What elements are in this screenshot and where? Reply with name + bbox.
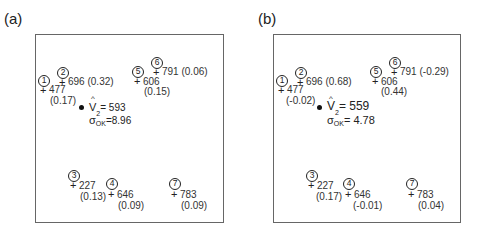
sample-value: 227 xyxy=(317,181,334,191)
sample-weight: (0.04) xyxy=(418,201,444,211)
sample-marker: + xyxy=(134,76,140,86)
estimate-number: = 593 xyxy=(100,102,125,113)
sample-marker: + xyxy=(345,189,351,199)
sample-marker: + xyxy=(108,189,114,199)
estimate-variance: σOK= 4.78 xyxy=(327,115,375,127)
sample-weight: (-0.29) xyxy=(419,66,448,77)
sample-marker: + xyxy=(408,189,414,199)
estimate-symbol: V xyxy=(327,99,335,113)
panel-label-a: (a) xyxy=(4,10,22,27)
sample-value-weight: 791 (-0.29) xyxy=(400,67,449,77)
sample-value-weight: 696 (0.68) xyxy=(306,77,352,87)
sample-weight: (0.09) xyxy=(181,201,207,211)
panel-label-b: (b) xyxy=(258,10,276,27)
sample-value: 696 xyxy=(306,76,323,87)
sample-marker: + xyxy=(59,77,65,87)
variance-subscript: OK xyxy=(96,120,106,127)
sample-weight: (0.15) xyxy=(144,87,170,97)
sample-weight: (0.68) xyxy=(325,76,351,87)
sample-marker: + xyxy=(70,180,76,190)
sample-value: 227 xyxy=(79,181,96,191)
sample-value: 646 xyxy=(354,190,371,200)
sample-value: 791 xyxy=(162,66,179,77)
sample-weight: (0.09) xyxy=(118,201,144,211)
sample-marker: + xyxy=(308,180,314,190)
sample-value-weight: 696 (0.32) xyxy=(68,77,114,87)
sample-value: 696 xyxy=(68,76,85,87)
sample-marker: + xyxy=(391,67,397,77)
sample-value: 791 xyxy=(400,66,417,77)
estimate-value: V2= 559 xyxy=(327,101,369,113)
sample-weight: (0.17) xyxy=(316,192,342,202)
sample-value: 783 xyxy=(180,190,197,200)
sample-weight: (-0.01) xyxy=(353,201,382,211)
estimate-variance: σOK=8.96 xyxy=(89,115,131,127)
estimation-point xyxy=(79,105,84,110)
sample-marker: + xyxy=(372,76,378,86)
sample-value: 783 xyxy=(417,190,434,200)
variance-number: = 4.78 xyxy=(344,114,375,126)
sample-value-weight: 791 (0.06) xyxy=(162,67,208,77)
estimate-value: V2= 593 xyxy=(89,102,126,114)
sample-marker: + xyxy=(297,77,303,87)
variance-subscript: OK xyxy=(334,120,344,127)
sigma-symbol: σ xyxy=(89,114,96,126)
sample-weight: (0.17) xyxy=(50,96,76,106)
variance-number: =8.96 xyxy=(106,115,131,126)
sample-marker: + xyxy=(171,189,177,199)
estimate-number: = 559 xyxy=(339,99,369,113)
sample-marker: + xyxy=(40,85,46,95)
sample-weight: (0.06) xyxy=(181,66,207,77)
sample-marker: + xyxy=(278,85,284,95)
sample-weight: (0.44) xyxy=(381,87,407,97)
sigma-symbol: σ xyxy=(327,114,334,126)
estimation-point xyxy=(317,105,322,110)
sample-weight: (-0.02) xyxy=(286,96,315,106)
sample-marker: + xyxy=(153,67,159,77)
sample-weight: (0.32) xyxy=(87,76,113,87)
sample-value: 646 xyxy=(117,190,134,200)
sample-weight: (0.13) xyxy=(80,192,106,202)
